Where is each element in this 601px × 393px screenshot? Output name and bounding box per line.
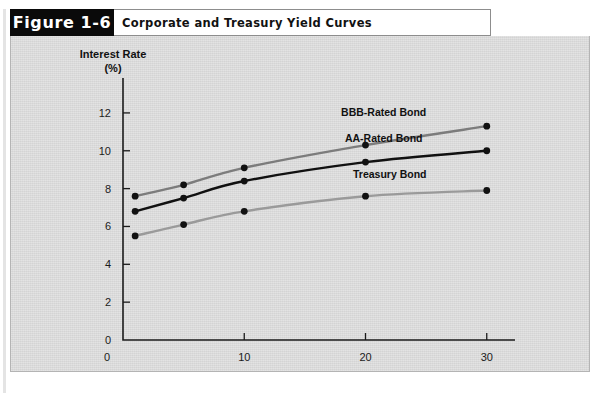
figure-number-badge: Figure 1-6 bbox=[10, 9, 114, 36]
y-axis-tick-label: 0 bbox=[105, 334, 111, 346]
chart-axes bbox=[123, 78, 515, 340]
y-axis-tick-label: 4 bbox=[105, 258, 111, 270]
x-axis-title: Years to Maturity bbox=[418, 369, 508, 372]
yield-curve-chart: 0246810120102030Interest Rate(%)Years to… bbox=[11, 36, 590, 372]
y-axis-title-line1: Interest Rate bbox=[80, 48, 147, 60]
x-axis-tick-label: 0 bbox=[104, 351, 110, 363]
y-axis-tick-label: 12 bbox=[99, 107, 111, 119]
x-axis-tick-label: 10 bbox=[238, 351, 250, 363]
series-point-1 bbox=[180, 195, 187, 202]
series-point-2 bbox=[132, 233, 139, 240]
series-label-1: AA-Rated Bond bbox=[345, 132, 423, 144]
y-axis-tick-label: 6 bbox=[105, 220, 111, 232]
series-point-2 bbox=[241, 208, 248, 215]
y-axis-tick-label: 8 bbox=[105, 183, 111, 195]
series-point-1 bbox=[132, 208, 139, 215]
series-point-0 bbox=[483, 123, 490, 130]
series-point-1 bbox=[241, 178, 248, 185]
series-point-1 bbox=[483, 147, 490, 154]
series-point-0 bbox=[132, 193, 139, 200]
series-label-0: BBB-Rated Bond bbox=[341, 106, 426, 118]
series-point-0 bbox=[241, 164, 248, 171]
series-point-2 bbox=[483, 187, 490, 194]
figure-title: Corporate and Treasury Yield Curves bbox=[122, 9, 372, 36]
series-point-2 bbox=[180, 221, 187, 228]
left-margin-rule bbox=[3, 9, 6, 393]
series-line-0 bbox=[135, 126, 487, 196]
figure-root: Figure 1-6 Corporate and Treasury Yield … bbox=[0, 0, 601, 393]
x-axis-tick-label: 30 bbox=[481, 351, 493, 363]
series-point-1 bbox=[362, 159, 369, 166]
series-label-2: Treasury Bond bbox=[353, 168, 427, 180]
chart-panel: 0246810120102030Interest Rate(%)Years to… bbox=[10, 36, 590, 372]
y-axis-tick-label: 10 bbox=[99, 145, 111, 157]
figure-number-label: Figure 1-6 bbox=[13, 15, 111, 31]
series-point-0 bbox=[180, 181, 187, 188]
x-axis-tick-label: 20 bbox=[359, 351, 371, 363]
series-point-2 bbox=[362, 193, 369, 200]
y-axis-tick-label: 2 bbox=[105, 296, 111, 308]
y-axis-title-line2: (%) bbox=[104, 62, 121, 74]
